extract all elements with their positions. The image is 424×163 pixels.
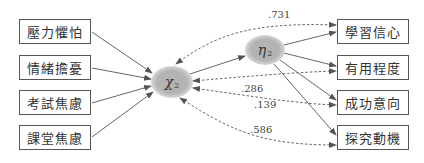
indicator-box-x1: 壓力懼怕 <box>19 19 91 44</box>
path-x1-chi2 <box>92 32 152 73</box>
path-x4-chi2 <box>92 92 153 137</box>
coefficient-label-y4: .586 <box>250 124 272 135</box>
latent-chi2: χ2 <box>151 66 193 98</box>
coefficient-label-y1: .731 <box>268 9 290 20</box>
coefficient-label-y3: .139 <box>254 99 276 110</box>
indicator-box-y4: 探究動機 <box>337 125 409 150</box>
indicator-box-y2: 有用程度 <box>337 55 409 80</box>
indicator-label: 探究動機 <box>345 128 401 147</box>
indicator-box-x4: 課堂焦慮 <box>19 125 91 150</box>
path-chi2-eta2 <box>190 56 245 74</box>
path-chi2-y2-dashed <box>193 71 336 81</box>
path-eta2-y2 <box>284 53 336 66</box>
indicator-box-y3: 成功意向 <box>337 90 409 115</box>
indicator-box-y1: 學習信心 <box>337 19 409 44</box>
indicator-label: 學習信心 <box>345 22 401 41</box>
indicator-box-x3: 考試焦慮 <box>19 90 91 115</box>
indicator-label: 課堂焦慮 <box>27 128 83 147</box>
coefficient-label-y2: .286 <box>241 83 263 94</box>
path-eta2-y1 <box>284 32 336 45</box>
path-x2-chi2 <box>92 68 151 79</box>
latent-subscript: 2 <box>174 81 179 90</box>
indicator-label: 情緒擔憂 <box>27 58 83 77</box>
latent-symbol: χ <box>165 74 173 90</box>
indicator-box-x2: 情緒擔憂 <box>19 55 91 80</box>
path-eta2-y4 <box>274 64 336 135</box>
indicator-label: 考試焦慮 <box>27 93 83 112</box>
indicator-label: 成功意向 <box>345 93 401 112</box>
indicator-label: 壓力懼怕 <box>27 22 83 41</box>
latent-symbol: η <box>258 42 266 58</box>
indicator-label: 有用程度 <box>345 58 401 77</box>
latent-eta2: η2 <box>245 35 285 65</box>
latent-subscript: 2 <box>267 49 272 58</box>
